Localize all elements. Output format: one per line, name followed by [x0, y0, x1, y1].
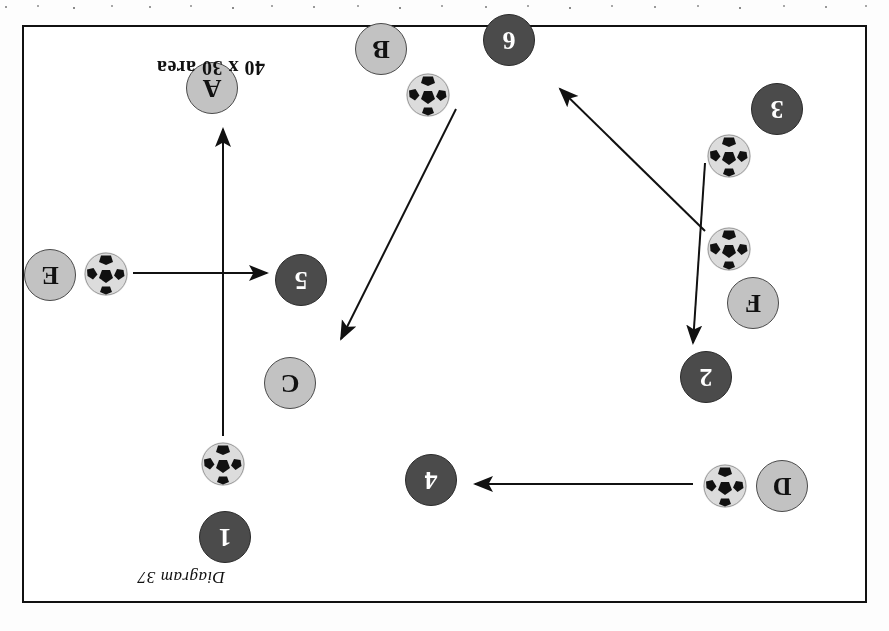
- player-token-label: D: [773, 471, 792, 501]
- player-token-f[interactable]: F: [727, 277, 779, 329]
- player-token-label: F: [745, 288, 761, 318]
- area-label: 40 x 30 area: [157, 56, 265, 79]
- player-token-label: 1: [219, 522, 232, 552]
- player-token-3[interactable]: 3: [751, 83, 803, 135]
- scan-artifact-speckle: [0, 0, 889, 14]
- player-token-6[interactable]: 6: [483, 14, 535, 66]
- player-token-2[interactable]: 2: [680, 351, 732, 403]
- ball-near-D: [703, 464, 747, 508]
- player-token-c[interactable]: C: [264, 357, 316, 409]
- player-token-label: B: [372, 34, 389, 64]
- player-token-1[interactable]: 1: [199, 511, 251, 563]
- player-token-label: C: [281, 368, 300, 398]
- pass-ball-to-C: [341, 109, 456, 339]
- field-border: 1D4C2F5E3AB6 Diagram 37 40 x 30 area: [22, 25, 867, 603]
- run-F-to-space: [560, 89, 705, 231]
- player-token-label: 2: [700, 362, 713, 392]
- diagram-page: 1D4C2F5E3AB6 Diagram 37 40 x 30 area: [0, 0, 889, 631]
- ball-near-B: [406, 73, 450, 117]
- player-token-5[interactable]: 5: [275, 254, 327, 306]
- player-token-d[interactable]: D: [756, 460, 808, 512]
- player-token-label: 3: [771, 94, 784, 124]
- ball-near-F: [707, 227, 751, 271]
- player-token-label: 5: [295, 265, 308, 295]
- player-token-label: E: [41, 260, 58, 290]
- diagram-caption: Diagram 37: [137, 567, 225, 587]
- player-token-b[interactable]: B: [355, 23, 407, 75]
- field-contents-rotated: 1D4C2F5E3AB6 Diagram 37 40 x 30 area: [24, 27, 865, 601]
- player-token-label: 6: [503, 25, 516, 55]
- player-token-label: 4: [425, 465, 438, 495]
- ball-near-E: [84, 252, 128, 296]
- run-3-to-2: [693, 163, 705, 343]
- ball-near-1: [201, 442, 245, 486]
- player-token-e[interactable]: E: [24, 249, 76, 301]
- ball-near-3: [707, 134, 751, 178]
- player-token-4[interactable]: 4: [405, 454, 457, 506]
